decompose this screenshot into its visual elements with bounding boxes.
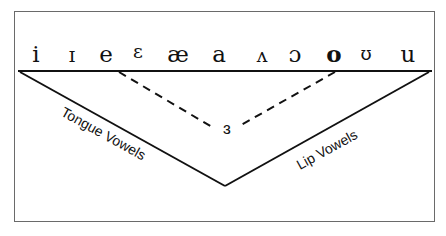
tongue-vowels-line — [20, 72, 225, 186]
vowel-symbol: o — [326, 40, 341, 67]
vowel-symbol: ʊ — [360, 43, 371, 64]
vowel-symbol: ɔ — [289, 41, 302, 67]
vowel-symbol: ʌ — [256, 44, 268, 66]
lip-vowels-line — [225, 72, 429, 186]
vowel-symbol: e — [99, 41, 113, 67]
vowel-symbol: ɪ — [69, 43, 75, 67]
vowel-symbol: i — [32, 41, 39, 67]
left-dashed-line — [119, 72, 212, 127]
vowel-symbol: u — [401, 41, 416, 67]
lip-vowels-label: Lip Vowels — [294, 126, 360, 172]
tongue-vowels-label: Tongue Vowels — [59, 104, 149, 164]
vowel-triangle-diagram: i ɪ e ɛ æ a ʌ ɔ o ʊ u ɜ Tongue Vowels Li… — [0, 0, 446, 236]
vowel-symbol: a — [212, 41, 226, 67]
vowel-symbol: æ — [167, 41, 189, 67]
center-vowel-symbol: ɜ — [223, 119, 231, 138]
vowel-symbol: ɛ — [133, 40, 143, 62]
right-dashed-line — [241, 72, 335, 125]
